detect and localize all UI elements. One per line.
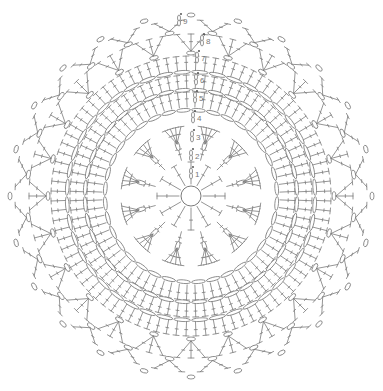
stitch-top-bar <box>330 274 333 279</box>
chain-oval <box>370 192 374 200</box>
chain-oval <box>176 279 190 284</box>
stitch-top-bar <box>213 333 219 334</box>
chain-oval <box>158 89 174 96</box>
stitch-top-bar <box>198 126 204 127</box>
stitch-top-bar <box>214 260 220 262</box>
chain-oval <box>176 108 190 113</box>
stitch-icon <box>96 288 106 298</box>
stitch-icon <box>280 191 295 192</box>
stitch-tick <box>299 155 300 158</box>
stitch-top-bar <box>70 179 71 185</box>
stitch-icon <box>229 145 238 158</box>
stitch-tick <box>213 64 216 65</box>
stitch-icon <box>297 217 310 220</box>
chain-oval <box>209 314 226 321</box>
stitch-top-bar <box>350 221 351 227</box>
stitch-icon <box>299 200 312 201</box>
chain-oval <box>223 228 233 238</box>
stitch-icon <box>76 268 87 276</box>
stitch-tick <box>138 72 141 73</box>
stitch-icon <box>90 48 95 64</box>
stitch-icon <box>264 275 273 285</box>
stitch-top-bar <box>277 85 282 89</box>
stitch-top-bar <box>311 179 312 185</box>
stitch-icon <box>262 133 274 142</box>
stitch-icon <box>168 94 171 109</box>
stitch-icon <box>219 36 228 55</box>
stitch-top-bar <box>126 320 131 323</box>
stitch-icon <box>270 237 283 244</box>
stitch-top-bar <box>178 265 184 266</box>
stitch-icon <box>263 81 271 92</box>
stitch-icon <box>344 132 358 141</box>
stitch-icon <box>127 29 136 43</box>
stitch-tick <box>201 154 204 155</box>
stitch-icon <box>251 95 258 106</box>
stitch-icon <box>245 267 254 279</box>
stitch-icon <box>255 349 271 352</box>
stitch-icon <box>244 290 250 301</box>
stitch-icon <box>166 320 168 334</box>
stitch-top-bar <box>80 282 84 287</box>
chain-oval <box>187 51 196 55</box>
stitch-icon <box>174 167 185 186</box>
stitch-tick <box>342 227 343 230</box>
stitch-icon <box>210 283 213 298</box>
stitch-tick <box>304 217 305 220</box>
start-chain-oval <box>196 57 199 63</box>
stitch-icon <box>103 87 112 98</box>
stitch-icon <box>186 75 187 88</box>
stitch-top-bar <box>51 178 52 184</box>
stitch-icon <box>205 248 217 261</box>
stitch-tick <box>167 83 170 84</box>
stitch-top-bar <box>178 126 184 127</box>
stitch-tick <box>40 162 41 165</box>
chain-oval <box>309 214 316 231</box>
stitch-icon <box>257 126 268 136</box>
stitch-icon <box>243 206 260 210</box>
stitch-tick <box>147 69 150 70</box>
stitch-icon <box>245 349 254 363</box>
stitch-top-bar <box>174 34 180 35</box>
chain-oval <box>174 317 191 322</box>
stitch-icon <box>281 129 292 136</box>
stitch-icon <box>103 294 112 305</box>
chain-oval <box>191 70 208 75</box>
stitch-tick <box>320 228 321 231</box>
stitch-icon <box>24 132 38 141</box>
chain-oval <box>88 148 97 164</box>
stitch-icon <box>201 202 220 213</box>
stitch-icon <box>213 361 228 369</box>
stitch-tick <box>283 165 284 168</box>
stitch-icon <box>266 140 279 148</box>
stitch-top-bar <box>49 112 52 117</box>
chain-oval <box>104 120 117 134</box>
chain-oval <box>187 13 195 17</box>
stitch-icon <box>116 281 124 291</box>
stitch-top-bar <box>213 58 219 59</box>
stitch-tick <box>64 152 65 155</box>
stitch-icon <box>270 294 279 305</box>
chain-oval <box>31 282 38 291</box>
chain-oval <box>96 277 110 291</box>
stitch-tick <box>160 288 163 289</box>
stitch-tick <box>138 319 141 320</box>
stitch-tick <box>232 69 235 70</box>
chain-oval <box>149 154 159 164</box>
stitch-top-bar <box>311 207 312 213</box>
stitch-top-bar <box>205 165 210 168</box>
chain-oval <box>315 64 323 72</box>
stitch-tick <box>320 161 321 164</box>
chain-oval <box>344 101 351 110</box>
stitch-tick <box>98 224 99 227</box>
chain-oval <box>344 282 351 291</box>
stitch-icon <box>153 36 162 55</box>
stitch-tick <box>238 91 241 92</box>
stitch-icon <box>344 116 347 132</box>
stitch-tick <box>64 237 65 240</box>
stitch-icon <box>167 302 170 315</box>
stitch-icon <box>245 29 254 43</box>
stitch-icon <box>31 158 50 167</box>
stitch-icon <box>111 81 119 92</box>
stitch-icon <box>34 116 37 132</box>
